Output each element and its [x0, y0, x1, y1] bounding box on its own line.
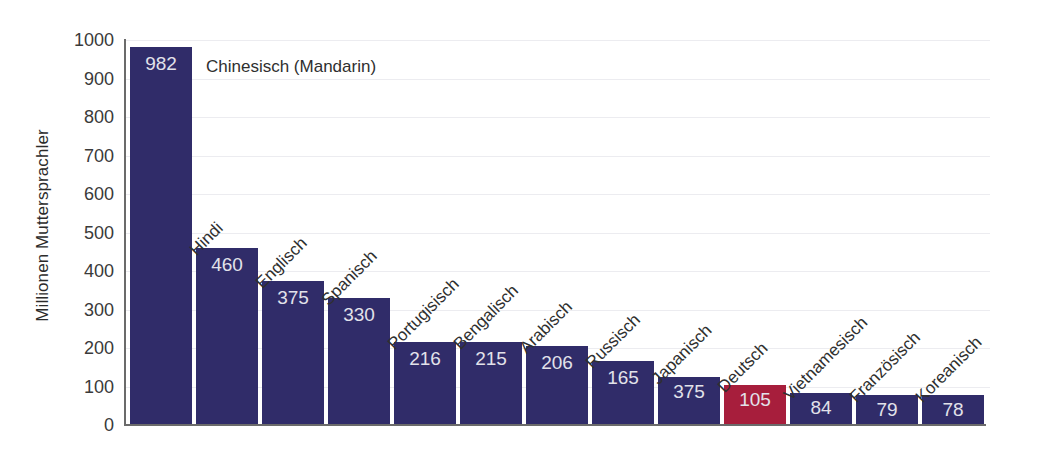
bar-fill [328, 298, 390, 425]
bar[interactable]: 375 [262, 281, 324, 425]
y-tick-label: 500 [54, 222, 114, 243]
bar-fill [460, 342, 522, 425]
bar[interactable]: 165 [592, 361, 654, 425]
bar-fill [394, 342, 456, 425]
y-tick-label: 700 [54, 145, 114, 166]
bar[interactable]: 375 [658, 377, 720, 425]
bar-fill [658, 377, 720, 425]
bar[interactable]: 215 [460, 342, 522, 425]
y-tick-label: 400 [54, 261, 114, 282]
y-tick-label: 100 [54, 376, 114, 397]
bar-fill [130, 47, 192, 425]
y-tick-label: 800 [54, 107, 114, 128]
y-tick-label: 600 [54, 184, 114, 205]
y-tick-label: 200 [54, 338, 114, 359]
gridline [124, 117, 990, 118]
bar-fill [262, 281, 324, 425]
y-axis-line [124, 39, 126, 426]
x-axis-line [124, 424, 986, 426]
bar-fill [526, 346, 588, 425]
bar[interactable]: 206 [526, 346, 588, 425]
gridline [124, 194, 990, 195]
gridline [124, 40, 990, 41]
bar[interactable]: 216 [394, 342, 456, 425]
bar-fill [196, 248, 258, 425]
y-tick-label: 300 [54, 299, 114, 320]
gridline [124, 156, 990, 157]
y-tick-label: 900 [54, 68, 114, 89]
y-tick-label: 0 [54, 415, 114, 436]
gridline [124, 79, 990, 80]
bar-fill [592, 361, 654, 425]
bar[interactable]: 330 [328, 298, 390, 425]
bar[interactable]: 982 [130, 47, 192, 425]
plot-area: 982Chinesisch (Mandarin)460Hindi375Engli… [124, 40, 990, 425]
bar-chart: Millionen Muttersprachler 10009008007006… [0, 0, 1063, 451]
gridline [124, 233, 990, 234]
x-category-label: Chinesisch (Mandarin) [206, 57, 376, 77]
bar[interactable]: 460 [196, 248, 258, 425]
y-tick-label: 1000 [54, 30, 114, 51]
y-axis-tick-labels: 10009008007006005004003002001000 [48, 0, 114, 451]
